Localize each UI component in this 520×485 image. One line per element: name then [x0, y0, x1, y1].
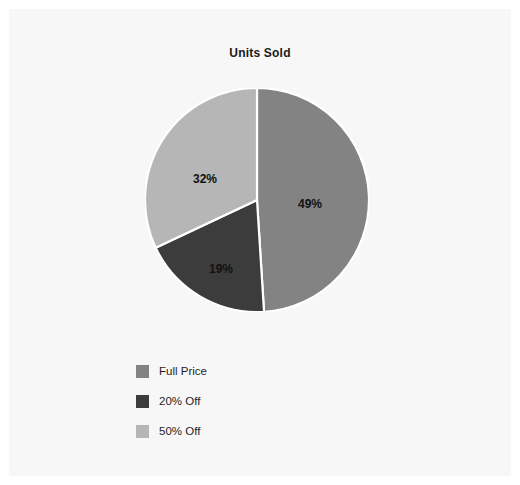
chart-title: Units Sold [0, 46, 520, 60]
legend-item-full-price[interactable]: Full Price [136, 364, 207, 378]
chart-legend: Full Price 20% Off 50% Off [136, 364, 207, 454]
pie-chart-panel: Units Sold 49% 19% 32% Full Price 20% Of… [0, 0, 520, 485]
legend-label: Full Price [159, 365, 207, 378]
pie-chart-graphic [145, 88, 369, 312]
legend-swatch-icon [136, 425, 149, 438]
legend-label: 20% Off [159, 395, 200, 408]
pie-label-50-off: 32% [193, 172, 217, 186]
pie-label-full-price: 49% [298, 197, 322, 211]
legend-label: 50% Off [159, 425, 200, 438]
pie-svg [145, 88, 369, 312]
legend-swatch-icon [136, 365, 149, 378]
legend-item-20-off[interactable]: 20% Off [136, 394, 207, 408]
legend-swatch-icon [136, 395, 149, 408]
pie-label-20-off: 19% [209, 262, 233, 276]
legend-item-50-off[interactable]: 50% Off [136, 424, 207, 438]
